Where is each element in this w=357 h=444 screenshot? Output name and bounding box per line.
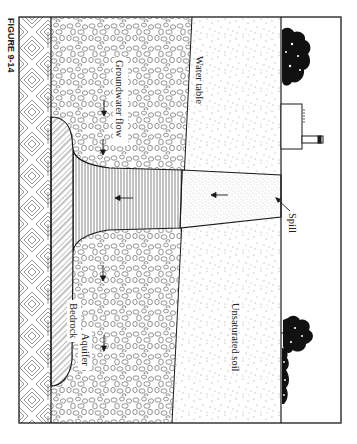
- label-unsaturated-soil: Unsaturated soil: [230, 303, 241, 372]
- factory-icon: [281, 104, 323, 149]
- label-aquifer: Aquifer: [80, 333, 91, 366]
- label-bedrock: Bedrock: [68, 303, 79, 339]
- label-water-table: Water table: [194, 56, 205, 104]
- tree-icon: [281, 316, 313, 353]
- groundwater-contamination-diagram: FIGURE 9-14: [0, 0, 357, 444]
- figure-label: FIGURE 9-14: [6, 18, 16, 73]
- label-spill: Spill: [287, 213, 298, 233]
- shrub-icon: [282, 348, 289, 404]
- bedrock-layer: [19, 17, 51, 423]
- label-groundwater-flow: Groundwater flow: [114, 60, 125, 138]
- tree-icon: [282, 28, 310, 86]
- dense-pool-layer: [51, 117, 73, 386]
